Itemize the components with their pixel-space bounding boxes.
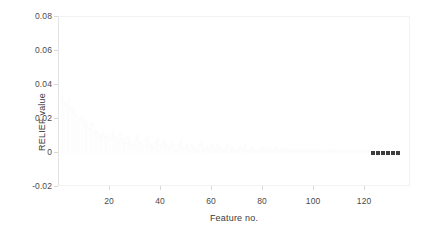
x-axis-tick-mark [313, 186, 314, 190]
data-point [88, 128, 91, 131]
x-axis-tick-label: 80 [257, 196, 267, 206]
data-point [75, 114, 78, 117]
data-point [142, 145, 145, 148]
data-stem [117, 141, 118, 153]
y-axis-tick-mark [54, 186, 58, 187]
data-stem [74, 112, 75, 153]
data-stem [99, 136, 100, 153]
y-axis-tick-label: 0.08 [35, 11, 52, 21]
data-point [60, 95, 63, 98]
x-axis-tick-label: 120 [357, 196, 371, 206]
data-point [259, 150, 262, 153]
data-point [241, 148, 244, 151]
data-point [213, 148, 216, 151]
x-axis-title: Feature no. [58, 213, 410, 223]
y-axis-tick-label: 0.02 [35, 113, 52, 123]
plot-area [58, 16, 410, 186]
data-point [144, 140, 147, 143]
data-point [131, 143, 134, 146]
data-point [154, 141, 157, 144]
data-stem [71, 109, 72, 153]
data-point-highlighted [381, 151, 385, 155]
data-point [188, 148, 191, 151]
data-stem [138, 136, 139, 153]
y-axis-tick-mark [54, 118, 58, 119]
data-stem [89, 129, 90, 153]
data-point [180, 140, 183, 143]
data-stem [79, 121, 80, 153]
x-axis-tick-mark [160, 186, 161, 190]
data-point [175, 148, 178, 151]
data-point [78, 119, 81, 122]
x-axis-tick-mark [109, 186, 110, 190]
data-point [68, 99, 71, 102]
x-axis-tick-label: 20 [104, 196, 114, 206]
data-point [272, 150, 275, 153]
data-stem [94, 131, 95, 153]
data-point [111, 131, 114, 134]
y-axis-tick-label: -0.02 [32, 181, 52, 191]
x-axis-tick-mark [364, 186, 365, 190]
y-axis-tick-label: 0.06 [35, 45, 52, 55]
data-point [152, 146, 155, 149]
data-point [244, 145, 247, 148]
data-point [80, 116, 83, 119]
data-point [137, 135, 140, 138]
data-point [226, 145, 229, 148]
data-stem [66, 105, 67, 153]
y-axis-tick-mark [54, 152, 58, 153]
data-stem [104, 138, 105, 153]
data-point [124, 141, 127, 144]
data-point [157, 138, 160, 141]
data-point-highlighted [386, 151, 390, 155]
x-axis-tick-mark [262, 186, 263, 190]
data-point [109, 138, 112, 141]
y-axis-tick-mark [54, 84, 58, 85]
data-point [91, 123, 94, 126]
data-stem [145, 141, 146, 153]
data-stem [135, 139, 136, 153]
data-stem [64, 102, 65, 153]
data-point [236, 150, 239, 153]
data-stem [125, 143, 126, 153]
data-point [198, 145, 201, 148]
data-point-highlighted [391, 151, 395, 155]
data-point [134, 138, 137, 141]
data-point-highlighted [376, 151, 380, 155]
y-axis-tick-label: 0 [47, 147, 52, 157]
data-point-highlighted [371, 151, 375, 155]
data-point [223, 148, 226, 151]
data-point [228, 150, 231, 153]
y-axis-tick-mark [54, 50, 58, 51]
data-layer [59, 17, 409, 185]
data-point [208, 150, 211, 153]
x-axis-tick-label: 40 [155, 196, 165, 206]
data-stem [155, 143, 156, 153]
data-point [195, 150, 198, 153]
data-point [200, 141, 203, 144]
data-point [177, 143, 180, 146]
data-point [167, 146, 170, 149]
x-axis-tick-label: 100 [306, 196, 320, 206]
data-point-highlighted [396, 151, 400, 155]
y-axis-tick-mark [54, 16, 58, 17]
relief-value-chart: RELIEF value Feature no. 0.080.060.040.0… [0, 0, 433, 244]
data-point [160, 145, 163, 148]
x-axis-tick-label: 60 [206, 196, 216, 206]
data-stem [61, 97, 62, 153]
data-point [147, 136, 150, 139]
y-axis-tick-label: 0.04 [35, 79, 52, 89]
data-point [116, 140, 119, 143]
x-axis-tick-mark [211, 186, 212, 190]
data-point [65, 104, 68, 107]
data-point [119, 133, 122, 136]
data-stem [110, 139, 111, 153]
